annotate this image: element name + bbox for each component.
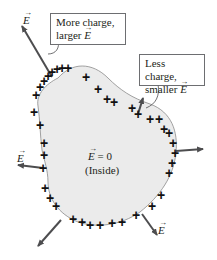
callout-less-charge: Less charge, smaller E — [139, 54, 205, 86]
svg-text:+: + — [86, 217, 94, 233]
svg-text:+: + — [165, 165, 173, 181]
svg-text:+: + — [110, 94, 118, 110]
svg-text:+: + — [78, 214, 86, 230]
callout-more-charge-line2: larger E — [56, 29, 120, 42]
callout-less-charge-line1: Less charge, — [145, 57, 199, 83]
svg-text:+: + — [118, 214, 126, 230]
svg-text:+: + — [134, 106, 142, 122]
svg-text:→: → — [18, 146, 26, 155]
svg-text:+: + — [108, 215, 116, 231]
callout-less-charge-line2: smaller E — [145, 83, 199, 96]
svg-text:+: + — [148, 198, 156, 214]
svg-text:→: → — [159, 218, 167, 227]
field-arrow-bottom-right — [142, 214, 157, 235]
svg-text:+: + — [30, 104, 38, 120]
svg-text:+: + — [157, 187, 165, 203]
svg-text:→: → — [89, 144, 97, 153]
svg-text:+: + — [69, 211, 77, 227]
field-arrow-bottom-left — [38, 220, 61, 246]
svg-text:+: + — [146, 111, 154, 127]
svg-text:+: + — [96, 217, 104, 233]
svg-text:+: + — [41, 180, 49, 196]
svg-text:→: → — [24, 8, 32, 17]
svg-text:+: + — [40, 135, 48, 151]
svg-text:+: + — [82, 69, 90, 85]
svg-text:+: + — [132, 207, 140, 223]
field-arrow-right — [176, 149, 203, 151]
svg-text:+: + — [64, 60, 72, 76]
inside-note: (Inside) — [85, 164, 120, 177]
callout-more-charge: More charge, larger E — [50, 13, 126, 45]
svg-text:+: + — [94, 81, 102, 97]
svg-text:+: + — [32, 87, 40, 103]
